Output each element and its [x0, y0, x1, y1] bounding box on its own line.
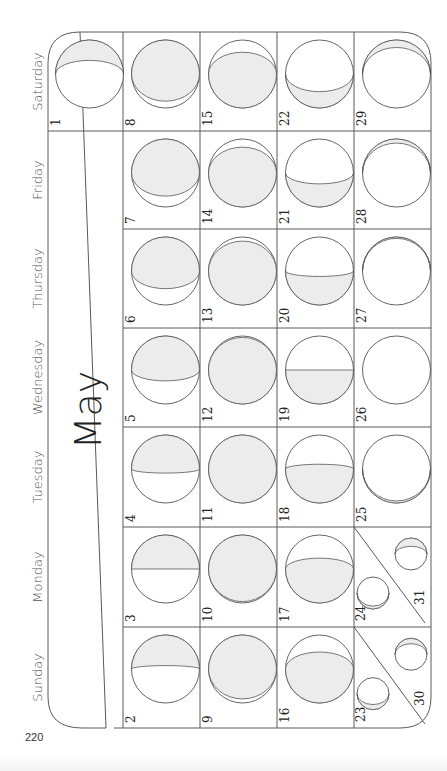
day-cell-13[interactable]: 13 — [201, 237, 277, 323]
day-cell-16[interactable]: 16 — [278, 635, 354, 723]
day-cell-25[interactable]: 25 — [355, 435, 431, 522]
day-number: 21 — [278, 209, 292, 224]
day-cell-3[interactable]: 3 — [124, 535, 200, 622]
day-number: 24 — [354, 605, 368, 621]
day-cell-28[interactable]: 28 — [355, 139, 431, 224]
day-number: 27 — [355, 308, 369, 323]
day-number: 11 — [201, 507, 215, 522]
moon-lit-portion — [286, 271, 354, 305]
weekday-label-tuesday: Tuesday — [30, 451, 45, 504]
day-cell-7[interactable]: 7 — [124, 139, 200, 224]
day-cell-8[interactable]: 8 — [124, 40, 200, 126]
day-cell-27[interactable]: 27 — [355, 237, 431, 323]
moon-lit-portion — [209, 635, 277, 699]
moon-lit-portion — [286, 370, 354, 404]
moon-lit-portion — [132, 435, 200, 473]
day-number: 12 — [201, 407, 215, 422]
moon-lit-portion — [209, 337, 277, 404]
day-number: 17 — [278, 607, 292, 622]
month-title: May — [66, 371, 110, 450]
day-cell-2[interactable]: 2 — [124, 635, 200, 723]
day-number: 20 — [278, 308, 292, 323]
day-cell-23[interactable]: 23 — [354, 678, 389, 722]
day-number: 5 — [124, 414, 138, 422]
day-cell-20[interactable]: 20 — [278, 237, 354, 323]
moon-lit-portion — [132, 40, 200, 101]
day-cell-26[interactable]: 26 — [355, 336, 431, 422]
day-number: 6 — [124, 315, 138, 323]
weekday-label-saturday: Saturday — [30, 52, 45, 111]
day-cell-4[interactable]: 4 — [124, 435, 200, 522]
moon-lit-portion — [132, 635, 200, 669]
day-number: 4 — [124, 514, 138, 522]
day-cell-14[interactable]: 14 — [201, 139, 277, 224]
day-number: 15 — [201, 111, 215, 126]
day-cell-1[interactable]: 1 — [49, 40, 124, 126]
day-cell-12[interactable]: 12 — [201, 336, 277, 422]
moon-phase-calendar: SaturdayFridayThursdayWednesdayTuesdayMo… — [0, 0, 447, 771]
day-cell-31[interactable]: 31 — [395, 538, 427, 605]
moon-lit-portion — [286, 464, 354, 503]
weekday-labels: SaturdayFridayThursdayWednesdayTuesdayMo… — [30, 52, 45, 702]
day-cell-9[interactable]: 9 — [201, 635, 277, 723]
day-number: 9 — [201, 715, 215, 723]
weekday-label-sunday: Sunday — [30, 653, 45, 702]
day-number: 29 — [355, 111, 369, 126]
day-number: 19 — [278, 407, 292, 422]
moon-lit-portion — [209, 52, 277, 108]
moon-lit-portion — [132, 535, 200, 569]
moon-lit-portion — [209, 435, 277, 503]
day-cell-21[interactable]: 21 — [278, 139, 354, 224]
day-cell-5[interactable]: 5 — [124, 336, 200, 422]
page-edge-shadow — [0, 755, 447, 771]
day-cell-22[interactable]: 22 — [278, 40, 354, 126]
page-number: 220 — [25, 731, 43, 743]
day-cell-24[interactable]: 24 — [354, 577, 389, 621]
day-number: 31 — [413, 590, 427, 605]
day-number: 16 — [278, 708, 292, 723]
day-cell-30[interactable]: 30 — [395, 638, 427, 706]
day-number: 13 — [201, 308, 215, 323]
moon-lit-portion — [209, 147, 277, 207]
day-number: 30 — [413, 691, 427, 706]
day-number: 18 — [278, 507, 292, 522]
day-cell-29[interactable]: 29 — [355, 40, 431, 126]
day-number: 3 — [124, 614, 138, 622]
day-number: 23 — [354, 707, 368, 722]
day-cell-11[interactable]: 11 — [201, 435, 277, 522]
day-number: 22 — [278, 111, 292, 126]
moon-lit-portion — [209, 241, 277, 305]
day-cell-15[interactable]: 15 — [201, 40, 277, 126]
day-number: 28 — [355, 209, 369, 224]
day-number: 26 — [355, 407, 369, 422]
moon-icon — [363, 336, 431, 404]
day-number: 2 — [124, 715, 138, 723]
weekday-label-thursday: Thursday — [30, 248, 45, 308]
day-number: 1 — [49, 118, 63, 126]
moon-lit-portion — [132, 336, 200, 381]
day-cell-6[interactable]: 6 — [124, 237, 200, 323]
day-number: 10 — [201, 607, 215, 622]
day-number: 8 — [124, 118, 138, 126]
moon-lit-portion — [132, 139, 200, 196]
day-cell-18[interactable]: 18 — [278, 435, 354, 522]
moon-lit-portion — [286, 558, 354, 603]
day-number: 14 — [201, 208, 215, 224]
day-cell-17[interactable]: 17 — [278, 535, 354, 622]
moon-lit-portion — [209, 535, 277, 602]
weekday-label-monday: Monday — [30, 551, 45, 602]
day-number: 7 — [124, 216, 138, 224]
weekday-label-friday: Friday — [30, 160, 45, 199]
day-cell-19[interactable]: 19 — [278, 336, 354, 422]
day-number: 25 — [355, 507, 369, 522]
weekday-label-wednesday: Wednesday — [30, 340, 45, 415]
moon-lit-portion — [132, 237, 200, 289]
moon-lit-portion — [286, 652, 354, 703]
day-cell-10[interactable]: 10 — [201, 535, 277, 622]
